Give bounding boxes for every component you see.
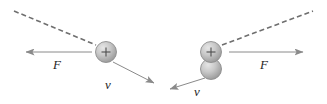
force-vector-label-right: F — [259, 57, 269, 72]
velocity-vector-line-left — [113, 62, 154, 83]
right-panel: F v — [170, 11, 313, 99]
dashed-trajectory-line-right — [222, 11, 313, 45]
physics-diagram: F v F v — [0, 0, 327, 104]
velocity-vector-label-left: v — [105, 77, 111, 92]
velocity-vector-label-right: v — [194, 84, 200, 99]
dashed-trajectory-line-left — [14, 11, 96, 45]
diagram-canvas: F v F v — [0, 0, 327, 104]
positive-charge-left — [96, 42, 117, 63]
left-panel: F v — [14, 11, 154, 92]
force-vector-label-left: F — [52, 57, 62, 72]
positive-charge-right — [201, 42, 222, 63]
